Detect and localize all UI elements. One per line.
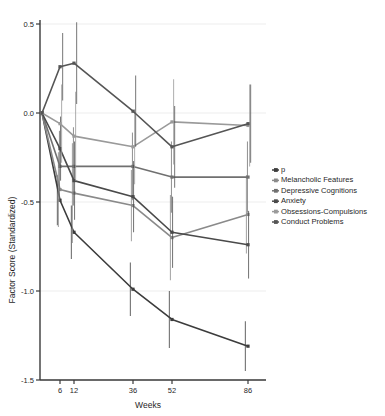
data-point: [170, 120, 173, 123]
legend-label: Conduct Problems: [281, 217, 344, 226]
data-point: [170, 145, 173, 148]
legend-marker-icon: [274, 199, 278, 203]
legend-marker-icon: [274, 168, 278, 172]
legend-item[interactable]: Conduct Problems: [272, 217, 344, 226]
data-point: [58, 122, 61, 125]
y-tick-label: 0.0: [24, 109, 34, 118]
legend-item[interactable]: Depressive Cognitions: [272, 186, 357, 195]
legend-label: Obsessions-Compulsions: [281, 207, 367, 216]
data-point: [246, 122, 249, 125]
data-point: [72, 62, 75, 65]
data-point: [246, 175, 249, 178]
legend-marker-icon: [274, 210, 278, 214]
x-tick-label: 36: [129, 386, 137, 395]
x-tick-label: 52: [168, 386, 176, 395]
legend-item[interactable]: Obsessions-Compulsions: [272, 207, 367, 216]
data-point: [246, 345, 249, 348]
x-axis-title: Weeks: [135, 400, 161, 410]
data-point: [58, 65, 61, 68]
line-chart-svg: 0.50.0-0.5-1.0-1.5 612365286 pMelancholi…: [0, 0, 385, 416]
legend-item[interactable]: Melancholic Features: [272, 175, 353, 184]
data-point: [131, 288, 134, 291]
y-tick-label: -1.0: [21, 287, 34, 296]
legend-label: Depressive Cognitions: [281, 186, 357, 195]
data-point: [170, 231, 173, 234]
y-tick-label: -1.5: [21, 376, 34, 385]
chart-figure: 0.50.0-0.5-1.0-1.5 612365286 pMelancholi…: [0, 0, 385, 416]
x-tick-label: 86: [244, 386, 252, 395]
legend-label: Anxiety: [281, 196, 306, 205]
data-point: [131, 195, 134, 198]
legend-marker-icon: [274, 189, 278, 193]
y-tick-label: 0.5: [24, 20, 34, 29]
x-tick-label: 6: [58, 386, 62, 395]
legend-label: p: [281, 165, 285, 174]
y-axis-title: Factor Score (Standardized): [7, 196, 17, 303]
legend-marker-icon: [274, 220, 278, 224]
data-point: [131, 145, 134, 148]
data-point: [131, 110, 134, 113]
data-point: [72, 135, 75, 138]
legend-label: Melancholic Features: [281, 175, 353, 184]
x-tick-label: 12: [70, 386, 78, 395]
data-point: [170, 318, 173, 321]
data-point: [246, 243, 249, 246]
legend-marker-icon: [274, 179, 278, 183]
y-tick-label: -0.5: [21, 198, 34, 207]
data-point: [40, 111, 43, 114]
data-point: [170, 175, 173, 178]
